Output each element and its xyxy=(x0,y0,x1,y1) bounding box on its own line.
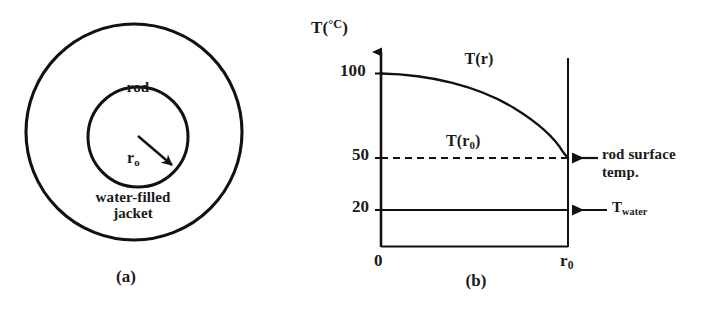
y-tick-label-50: 50 xyxy=(352,146,369,164)
outer-circle-label-line2: jacket xyxy=(113,206,153,222)
radius-arrow-label: ro xyxy=(127,150,140,168)
surface-temp-level-label-close: ) xyxy=(475,132,480,149)
water-temp-annotation: Twater xyxy=(612,200,648,217)
y-axis-title-close: ) xyxy=(342,18,348,37)
water-temp-annotation-main: T xyxy=(612,199,622,215)
figure-canvas xyxy=(0,0,701,313)
x-tick-label-r0: r0 xyxy=(560,252,574,272)
x-tick-label-r0-main: r xyxy=(560,251,568,270)
outer-circle-label-line1: water-filled xyxy=(96,190,171,206)
water-temp-annotation-subscript: water xyxy=(622,206,647,217)
x-tick-label-origin: 0 xyxy=(374,252,383,270)
y-axis-title-main: T( xyxy=(311,18,328,37)
rod-surface-annotation-line1: rod surface xyxy=(602,146,676,164)
y-tick-label-100: 100 xyxy=(340,62,366,80)
figure-root: rod ro water-filled jacket (a) T(°C) 100… xyxy=(0,0,701,313)
radius-arrow-label-subscript: o xyxy=(134,156,140,168)
degree-celsius-unit: °C xyxy=(328,17,342,31)
surface-temp-level-label: T(r0) xyxy=(446,133,480,151)
y-axis-title: T(°C) xyxy=(311,18,348,37)
surface-temp-level-label-main: T(r xyxy=(446,132,469,149)
curve-label-tr: T(r) xyxy=(465,51,494,68)
panel-b-caption: (b) xyxy=(465,272,486,290)
x-tick-label-r0-subscript: 0 xyxy=(568,259,574,272)
panel-b-chart xyxy=(375,52,607,247)
rod-surface-annotation-line2: temp. xyxy=(602,164,639,182)
y-tick-label-20: 20 xyxy=(352,198,369,216)
panel-a-caption: (a) xyxy=(116,268,136,286)
inner-circle-label-rod: rod xyxy=(127,80,150,96)
radius-arrow-line xyxy=(138,136,172,165)
